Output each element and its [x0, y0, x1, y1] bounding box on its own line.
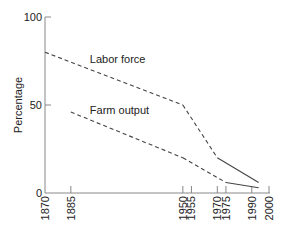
y-tick-label: 100: [24, 11, 42, 23]
x-tick-label: 2000: [263, 196, 275, 220]
x-tick-label: 1975: [220, 196, 232, 220]
x-tick-label: 1955: [185, 196, 197, 220]
labor-force-segment: [217, 158, 258, 183]
x-tick-label: 1885: [65, 196, 77, 220]
labor-force-label: Labor force: [90, 53, 146, 65]
y-tick-label: 50: [30, 99, 42, 111]
farm-output-label: Farm output: [90, 104, 149, 116]
labels-group: Labor forceFarm output: [90, 53, 149, 116]
x-tick-label: 1990: [246, 196, 258, 220]
x-tick-label: 1870: [39, 196, 51, 220]
y-axis-title: Percentage: [12, 77, 24, 133]
farm-output-segment: [226, 182, 259, 187]
line-chart: 05010018701885195019551970197519902000Pe…: [0, 0, 289, 232]
farm-output-segment: [71, 112, 183, 158]
series-group: [45, 52, 259, 188]
farm-output-segment: [183, 158, 226, 183]
labor-force-segment: [183, 105, 217, 158]
